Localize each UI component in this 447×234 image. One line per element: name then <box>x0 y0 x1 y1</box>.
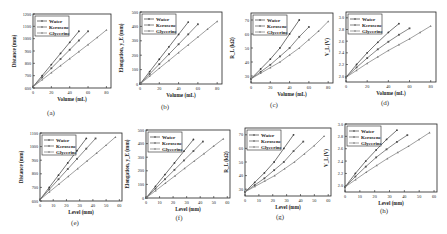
svg-text:40: 40 <box>176 86 180 91</box>
x-axis-label: Volume (mL) <box>277 91 307 98</box>
svg-text:20: 20 <box>268 85 272 90</box>
svg-text:Kerosene: Kerosene <box>56 144 77 149</box>
svg-text:40: 40 <box>239 173 243 178</box>
svg-text:700: 700 <box>32 185 38 190</box>
chart-panel-e: 010203040506060070080090010001100Level (… <box>10 127 128 223</box>
svg-text:50: 50 <box>245 46 249 51</box>
x-axis-label: Level (mm) <box>175 206 201 213</box>
svg-text:40: 40 <box>402 194 406 199</box>
svg-text:2.4: 2.4 <box>339 50 345 55</box>
svg-text:20: 20 <box>271 198 275 203</box>
svg-text:70: 70 <box>239 132 243 137</box>
svg-text:1200: 1200 <box>23 12 31 17</box>
svg-text:800: 800 <box>25 61 31 66</box>
y-axis-label: R_L (kΩ) <box>229 37 236 59</box>
svg-text:300: 300 <box>132 38 138 43</box>
svg-text:60: 60 <box>245 32 249 37</box>
legend: WaterKeroseneGlycerine <box>247 130 283 150</box>
svg-text:0: 0 <box>250 85 252 90</box>
svg-text:20: 20 <box>365 84 369 89</box>
svg-text:Kerosene: Kerosene <box>361 135 382 140</box>
x-axis-label: Volume (mL) <box>57 96 87 103</box>
svg-text:40: 40 <box>198 200 202 205</box>
y-axis-label: Elongation, y_E (mm) <box>124 139 131 188</box>
svg-text:0: 0 <box>136 82 138 87</box>
svg-text:50: 50 <box>104 203 108 208</box>
svg-text:20: 20 <box>157 86 161 91</box>
chart-panel-b: 0204060800100200300400500Volume (mL)Elon… <box>110 6 228 106</box>
svg-text:700: 700 <box>25 73 31 78</box>
svg-text:2.2: 2.2 <box>338 171 343 176</box>
svg-text:Glycerine: Glycerine <box>361 141 383 146</box>
svg-text:400: 400 <box>138 141 144 146</box>
svg-text:2.0: 2.0 <box>338 183 343 188</box>
legend: WaterKeroseneGlycerine <box>348 14 384 34</box>
svg-text:2.2: 2.2 <box>339 62 344 67</box>
svg-text:600: 600 <box>32 199 38 204</box>
svg-text:1100: 1100 <box>30 131 38 136</box>
svg-text:Kerosene: Kerosene <box>261 139 282 144</box>
svg-text:Kerosene: Kerosene <box>162 141 183 146</box>
svg-text:0: 0 <box>142 196 144 201</box>
panel-caption: (b) <box>150 103 180 111</box>
panel-caption: (h) <box>369 207 399 215</box>
panel-caption: (f) <box>164 214 194 222</box>
svg-text:Glycerine: Glycerine <box>156 29 178 34</box>
svg-text:2.8: 2.8 <box>338 134 343 139</box>
svg-text:20: 20 <box>171 200 175 205</box>
svg-text:500: 500 <box>132 10 138 15</box>
panel-caption: (e) <box>60 219 90 227</box>
svg-text:10: 10 <box>157 200 161 205</box>
legend: WaterKeroseneGlycerine <box>35 16 71 36</box>
svg-text:20: 20 <box>49 90 53 95</box>
svg-text:0: 0 <box>32 90 34 95</box>
svg-text:Water: Water <box>156 17 170 22</box>
svg-text:80: 80 <box>215 86 219 91</box>
svg-text:Kerosene: Kerosene <box>267 24 288 29</box>
svg-text:50: 50 <box>417 194 421 199</box>
svg-text:60: 60 <box>196 86 200 91</box>
svg-text:Water: Water <box>361 129 375 134</box>
legend: WaterKeroseneGlycerine <box>148 132 184 152</box>
svg-text:900: 900 <box>25 49 31 54</box>
svg-text:60: 60 <box>407 84 411 89</box>
svg-text:40: 40 <box>386 84 390 89</box>
svg-text:10: 10 <box>257 198 261 203</box>
svg-text:0: 0 <box>345 84 347 89</box>
svg-text:200: 200 <box>132 53 138 58</box>
svg-text:100: 100 <box>132 67 138 72</box>
svg-text:60: 60 <box>86 90 90 95</box>
svg-text:Glycerine: Glycerine <box>261 145 283 150</box>
svg-text:70: 70 <box>245 18 249 23</box>
legend: WaterKeroseneGlycerine <box>42 135 78 155</box>
svg-text:600: 600 <box>25 86 31 91</box>
svg-text:60: 60 <box>239 146 243 151</box>
svg-text:30: 30 <box>245 74 249 79</box>
svg-text:Water: Water <box>261 133 275 138</box>
legend: WaterKeroseneGlycerine <box>347 126 383 146</box>
svg-text:20: 20 <box>373 194 377 199</box>
svg-text:40: 40 <box>91 203 95 208</box>
svg-text:3.0: 3.0 <box>338 122 343 127</box>
legend: WaterKeroseneGlycerine <box>142 14 178 34</box>
svg-text:Glycerine: Glycerine <box>362 29 384 34</box>
svg-text:400: 400 <box>132 24 138 29</box>
svg-text:40: 40 <box>245 60 249 65</box>
svg-text:2.4: 2.4 <box>338 159 344 164</box>
svg-text:60: 60 <box>432 194 436 199</box>
panel-caption: (a) <box>36 109 66 117</box>
svg-text:40: 40 <box>68 90 72 95</box>
svg-text:Kerosene: Kerosene <box>362 23 383 28</box>
x-axis-label: Level (mm) <box>378 200 404 207</box>
svg-text:30: 30 <box>285 198 289 203</box>
panel-caption: (c) <box>259 101 289 109</box>
panel-caption: (d) <box>370 99 400 107</box>
chart-panel-a: 020406080600700800900100011001200Volume … <box>3 8 117 110</box>
svg-text:60: 60 <box>307 85 311 90</box>
y-axis-label: Elongation, y_E (mm) <box>118 23 125 72</box>
svg-text:30: 30 <box>185 200 189 205</box>
svg-text:900: 900 <box>32 158 38 163</box>
svg-text:30: 30 <box>387 194 391 199</box>
svg-text:Water: Water <box>56 138 70 143</box>
x-axis-label: Level (mm) <box>68 209 94 216</box>
